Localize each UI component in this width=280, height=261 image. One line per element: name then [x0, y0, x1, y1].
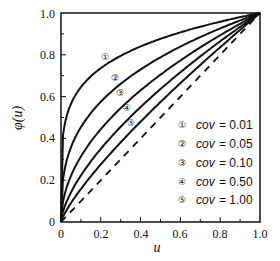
y-tick-0.2: 0.2 — [40, 173, 55, 187]
legend-marker: ④ — [178, 177, 186, 187]
legend-value: = 0.05 — [219, 137, 253, 151]
y-tick-0.8: 0.8 — [40, 48, 55, 62]
x-tick-0.2: 0.2 — [94, 227, 109, 241]
x-tick-0.8: 0.8 — [213, 227, 228, 241]
legend-var: cov — [196, 156, 216, 170]
legend-item: ③ cov = 0.10 — [178, 156, 253, 170]
y-tick-1.0: 1.0 — [40, 7, 55, 21]
legend-item: ④ cov = 0.50 — [178, 175, 253, 189]
legend: ① cov = 0.01 ② cov = 0.05 ③ cov = 0.10 ④… — [178, 118, 253, 207]
curve-label-4: ④ — [123, 103, 131, 113]
curve-label-3: ③ — [116, 88, 124, 98]
curve-label-2: ② — [111, 73, 119, 83]
legend-value: = 0.50 — [219, 175, 253, 189]
legend-marker: ③ — [178, 158, 186, 168]
legend-var: cov — [196, 118, 216, 132]
y-tick-0.4: 0.4 — [40, 131, 55, 145]
curve-label-5: ⑤ — [127, 118, 135, 128]
x-tick-0: 0 — [58, 227, 64, 241]
chart-figure: 0 0.2 0.4 0.6 0.8 1.0 0 0.2 0.4 0.6 0.8 … — [0, 0, 280, 261]
chart-svg: 0 0.2 0.4 0.6 0.8 1.0 0 0.2 0.4 0.6 0.8 … — [0, 0, 280, 261]
legend-item: ② cov = 0.05 — [178, 137, 253, 151]
legend-var: cov — [196, 175, 216, 189]
legend-var: cov — [196, 137, 216, 151]
legend-value: = 0.10 — [219, 156, 253, 170]
legend-value: = 1.00 — [219, 193, 253, 207]
legend-marker: ① — [178, 120, 186, 130]
legend-var: cov — [196, 193, 216, 207]
y-axis-label: φ(u) — [10, 106, 26, 130]
y-tick-0.6: 0.6 — [40, 90, 55, 104]
y-tick-0: 0 — [49, 215, 55, 229]
x-tick-1.0: 1.0 — [253, 227, 268, 241]
x-tick-0.4: 0.4 — [134, 227, 149, 241]
legend-marker: ⑤ — [178, 195, 186, 205]
legend-marker: ② — [178, 139, 186, 149]
x-tick-0.6: 0.6 — [173, 227, 188, 241]
legend-item: ⑤ cov = 1.00 — [178, 193, 253, 207]
legend-value: = 0.01 — [219, 118, 253, 132]
curve-label-1: ① — [101, 52, 109, 62]
legend-item: ① cov = 0.01 — [178, 118, 253, 132]
x-axis-label: u — [154, 240, 161, 255]
